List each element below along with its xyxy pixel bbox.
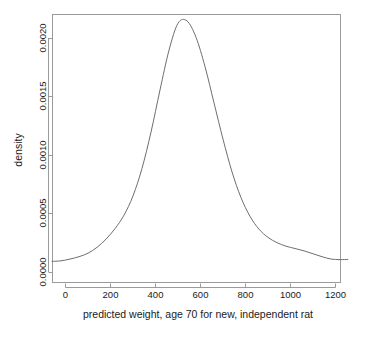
x-tick-label-0: 0	[63, 289, 68, 300]
density-plot-figure: 0.0020 0.0015 0.0010 0.0005 0.0000 densi…	[0, 0, 365, 341]
y-tick-label-0.0000: 0.0000	[37, 257, 48, 286]
x-axis-title: predicted weight, age 70 for new, indepe…	[83, 308, 313, 320]
x-tick-label-1000: 1000	[280, 289, 301, 300]
plot-panel-border	[53, 15, 341, 283]
y-tick-label-0.0010: 0.0010	[37, 140, 48, 169]
density-curve	[52, 19, 348, 261]
y-axis-title: density	[12, 133, 24, 167]
y-tick-label-0.0015: 0.0015	[37, 81, 48, 110]
x-tick-label-400: 400	[148, 289, 164, 300]
x-axis: 0 200 400 600 800 1000 1200	[63, 284, 346, 301]
x-tick-label-1200: 1200	[325, 289, 346, 300]
x-tick-label-800: 800	[238, 289, 254, 300]
x-tick-label-600: 600	[193, 289, 209, 300]
plot-canvas: 0.0020 0.0015 0.0010 0.0005 0.0000 densi…	[0, 0, 365, 341]
y-axis: 0.0020 0.0015 0.0010 0.0005 0.0000	[37, 23, 53, 286]
y-tick-label-0.0005: 0.0005	[37, 198, 48, 227]
y-tick-label-0.0020: 0.0020	[37, 23, 48, 52]
x-tick-label-200: 200	[103, 289, 119, 300]
